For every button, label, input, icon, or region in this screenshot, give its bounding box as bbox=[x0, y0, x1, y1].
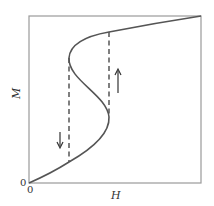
plot-frame bbox=[29, 16, 201, 183]
magnetization-curve bbox=[29, 16, 201, 183]
down-arrow-icon bbox=[57, 132, 63, 148]
x-axis-label: H bbox=[110, 189, 121, 202]
y-axis-label: M bbox=[10, 87, 23, 100]
up-arrow-icon bbox=[115, 69, 121, 93]
hysteresis-diagram: M H 0 0 bbox=[0, 0, 214, 206]
origin-y-label: 0 bbox=[20, 177, 26, 188]
origin-x-label: 0 bbox=[27, 184, 33, 195]
